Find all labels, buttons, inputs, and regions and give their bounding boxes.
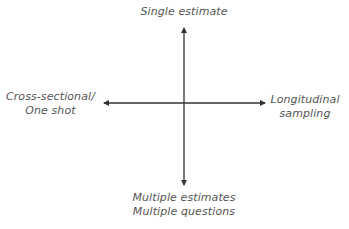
axis-label-bottom: Multiple estimates Multiple questions: [132, 191, 235, 219]
axis-label-top: Single estimate: [140, 5, 227, 19]
axis-label-bottom-line1: Multiple estimates: [132, 191, 235, 205]
axis-label-right-line2: sampling: [270, 107, 339, 121]
axis-label-left-line1: Cross-sectional/: [6, 90, 95, 104]
axis-label-left: Cross-sectional/ One shot: [6, 90, 95, 118]
axis-label-right-line1: Longitudinal: [270, 93, 339, 107]
axis-label-top-text: Single estimate: [140, 5, 227, 19]
axis-label-bottom-line2: Multiple questions: [132, 205, 235, 219]
axis-label-left-line2: One shot: [6, 104, 95, 118]
quadrant-diagram: Single estimate Cross-sectional/ One sho…: [0, 0, 349, 229]
axis-label-right: Longitudinal sampling: [270, 93, 339, 121]
